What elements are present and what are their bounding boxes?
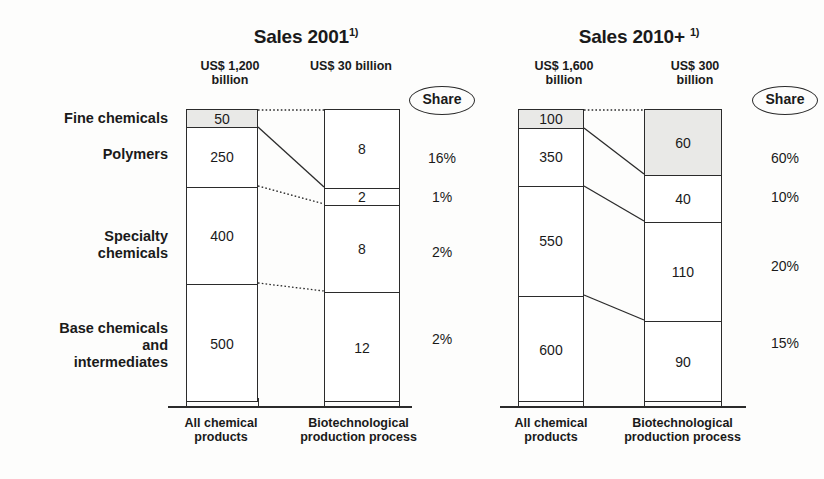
row-label-line: Specialty xyxy=(0,228,168,245)
axis-label-line: All chemical xyxy=(166,416,276,430)
segment-base-chemicals: 12 xyxy=(325,292,399,403)
segment-value: 500 xyxy=(210,336,233,352)
row-label-fine-chemicals: Fine chemicals xyxy=(0,110,168,127)
row-label-specialty-chemicals: Specialty chemicals xyxy=(0,228,168,262)
panel-title-footnote: 1) xyxy=(349,26,358,38)
axis-label-all-chemical-products: All chemical products xyxy=(166,416,276,444)
axis-tick xyxy=(399,398,400,407)
segment-polymers: 2 xyxy=(325,188,399,205)
row-label-line: Base chemicals xyxy=(0,320,168,337)
column-head-line: US$ 30 billion xyxy=(286,60,416,74)
column-head-line: billion xyxy=(640,74,750,88)
link-line-polymers-specialty xyxy=(258,186,324,204)
share-badge-label: Share xyxy=(752,86,818,115)
segment-value: 12 xyxy=(354,340,370,356)
x-axis-line xyxy=(168,406,412,408)
column-head-biotech-process: US$ 30 billion xyxy=(286,60,416,74)
column-head-line: US$ 1,200 xyxy=(170,60,290,74)
share-value-fine-chemicals: 60% xyxy=(752,150,818,166)
segment-value: 50 xyxy=(214,111,230,127)
bar-biotech-production-process: 8 2 8 12 xyxy=(324,109,400,402)
segment-polymers: 40 xyxy=(645,175,721,222)
axis-label-biotech-production-process: Biotechnological production process xyxy=(286,416,431,444)
segment-base-chemicals: 90 xyxy=(645,321,721,403)
link-line-specialty-base xyxy=(258,283,324,291)
row-label-line: intermediates xyxy=(0,354,168,371)
panel-title-footnote: 1) xyxy=(690,26,699,38)
segment-value: 400 xyxy=(210,228,233,244)
panel-sales-2001: Sales 20011) US$ 1,200 billion US$ 30 bi… xyxy=(176,0,476,479)
row-label-polymers: Polymers xyxy=(0,146,168,163)
axis-tick xyxy=(644,398,645,407)
column-head-biotech-process: US$ 300 billion xyxy=(640,60,750,87)
segment-value: 40 xyxy=(675,191,691,207)
column-head-line: billion xyxy=(504,74,624,88)
segment-base-chemicals: 600 xyxy=(519,296,583,403)
share-value-base-chemicals: 15% xyxy=(752,335,818,351)
segment-value: 250 xyxy=(210,149,233,165)
share-value-polymers: 10% xyxy=(752,189,818,205)
segment-specialty-chemicals: 550 xyxy=(519,186,583,296)
column-head-all-chemical-products: US$ 1,200 billion xyxy=(170,60,290,87)
row-label-line: and xyxy=(0,337,168,354)
row-label-base-chemicals: Base chemicals and intermediates xyxy=(0,320,168,371)
segment-value: 8 xyxy=(358,241,366,257)
chart-canvas: Fine chemicals Polymers Specialty chemic… xyxy=(0,0,824,479)
link-line-fine-polymers xyxy=(584,128,644,174)
segment-value: 550 xyxy=(539,233,562,249)
segment-polymers: 250 xyxy=(187,127,257,187)
row-label-line: chemicals xyxy=(0,245,168,262)
axis-label-line: Biotechnological xyxy=(286,416,431,430)
segment-specialty-chemicals: 8 xyxy=(325,205,399,292)
segment-value: 8 xyxy=(358,141,366,157)
segment-value: 350 xyxy=(539,149,562,165)
axis-label-line: Biotechnological xyxy=(610,416,755,430)
segment-base-chemicals: 500 xyxy=(187,284,257,403)
bar-biotech-production-process: 60 40 110 90 xyxy=(644,109,722,402)
segment-value: 110 xyxy=(672,264,694,280)
axis-label-all-chemical-products: All chemical products xyxy=(496,416,606,444)
axis-tick xyxy=(583,398,584,407)
share-badge-label: Share xyxy=(409,86,475,115)
column-head-line: billion xyxy=(170,74,290,88)
segment-value: 600 xyxy=(539,342,562,358)
panel-sales-2010: Sales 2010+ 1) US$ 1,600 billion US$ 300… xyxy=(512,0,824,479)
panel-title-text: Sales 2001 xyxy=(254,26,349,47)
segment-fine-chemicals: 60 xyxy=(645,110,721,175)
bar-all-chemical-products: 100 350 550 600 xyxy=(518,109,584,402)
segment-fine-chemicals: 50 xyxy=(187,110,257,127)
panel-title: Sales 2010+ 1) xyxy=(506,26,772,48)
axis-tick xyxy=(324,398,325,407)
row-label-line: Fine chemicals xyxy=(0,110,168,127)
link-line-specialty-base xyxy=(584,295,644,320)
row-label-line: Polymers xyxy=(0,146,168,163)
segment-specialty-chemicals: 400 xyxy=(187,187,257,284)
x-axis-line xyxy=(500,406,746,408)
link-line-fine-polymers xyxy=(258,127,324,187)
column-head-all-chemical-products: US$ 1,600 billion xyxy=(504,60,624,87)
segment-polymers: 350 xyxy=(519,128,583,186)
share-value-specialty-chemicals: 2% xyxy=(409,244,475,260)
panel-title-text: Sales 2010+ xyxy=(579,26,685,47)
axis-label-line: products xyxy=(496,430,606,444)
share-value-fine-chemicals: 16% xyxy=(409,150,475,166)
axis-label-line: production process xyxy=(286,430,431,444)
segment-value: 90 xyxy=(675,354,691,370)
axis-tick xyxy=(721,398,722,407)
axis-label-line: products xyxy=(166,430,276,444)
axis-tick xyxy=(186,398,187,407)
axis-tick xyxy=(258,398,259,407)
segment-value: 2 xyxy=(358,189,366,205)
segment-fine-chemicals: 100 xyxy=(519,110,583,128)
column-head-line: US$ 1,600 xyxy=(504,60,624,74)
axis-label-line: production process xyxy=(610,430,755,444)
segment-value: 100 xyxy=(539,111,562,127)
share-value-specialty-chemicals: 20% xyxy=(752,258,818,274)
segment-value: 60 xyxy=(675,135,691,151)
axis-tick xyxy=(518,398,519,407)
segment-fine-chemicals: 8 xyxy=(325,110,399,188)
link-line-polymers-specialty xyxy=(584,186,644,221)
share-value-base-chemicals: 2% xyxy=(409,331,475,347)
segment-specialty-chemicals: 110 xyxy=(645,222,721,321)
column-head-line: US$ 300 xyxy=(640,60,750,74)
